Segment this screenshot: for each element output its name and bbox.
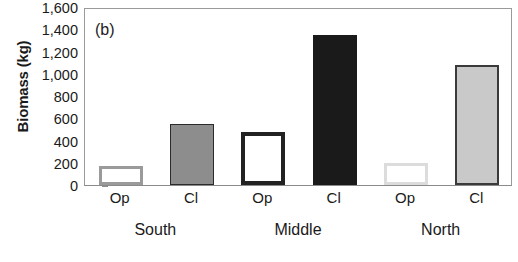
y-axis-tick-label: 600 (54, 112, 78, 127)
y-axis-tick-label: 200 (54, 157, 78, 172)
bar (384, 163, 428, 185)
x-axis-tick-label: Cl (469, 190, 483, 205)
y-axis-tick-label: 0 (70, 179, 78, 194)
group-label: North (421, 222, 460, 238)
bar (99, 166, 143, 185)
x-axis-tick-label: Cl (327, 190, 341, 205)
group-label: South (134, 222, 176, 238)
bar (241, 132, 285, 185)
x-axis-tick-label: Op (252, 190, 272, 205)
bar (170, 124, 214, 185)
y-axis-tick-label: 1,400 (42, 23, 78, 38)
y-axis-tick-mark (102, 186, 108, 187)
panel-label: (b) (95, 22, 115, 38)
y-axis-tick-label: 1,200 (42, 45, 78, 60)
x-axis-tick-label: Op (110, 190, 130, 205)
x-axis-tick-label: Cl (184, 190, 198, 205)
plot-area: (b) (84, 8, 512, 186)
y-axis-tick-label: 1,600 (42, 1, 78, 16)
y-axis-tick-label: 1,000 (42, 68, 78, 83)
y-axis-tick-label: 800 (54, 90, 78, 105)
x-axis-tick-labels: OpClOpClOpCl (84, 190, 512, 216)
y-axis-tick-label: 400 (54, 134, 78, 149)
y-axis-tick-labels: 1,6001,4001,2001,0008006004002000 (24, 0, 78, 196)
bar (313, 35, 357, 185)
chart-figure: Biomass (kg) 1,6001,4001,2001,0008006004… (0, 0, 518, 262)
group-label: Middle (274, 222, 321, 238)
x-axis-group-labels: SouthMiddleNorth (84, 222, 512, 248)
x-axis-tick-label: Op (395, 190, 415, 205)
bar (455, 65, 499, 185)
